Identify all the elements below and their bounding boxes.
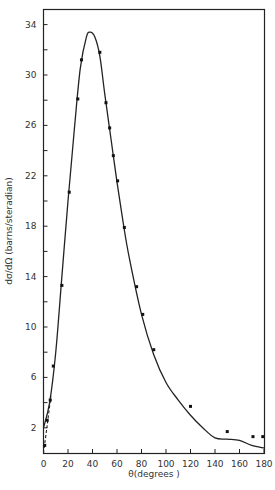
data-point [135, 285, 138, 288]
x-tick-label: 60 [111, 459, 123, 469]
x-tick-label: 100 [157, 459, 174, 469]
data-point [251, 435, 254, 438]
data-point [189, 405, 192, 408]
data-point [152, 348, 155, 351]
x-tick-label: 140 [206, 459, 223, 469]
data-point [49, 399, 52, 402]
y-tick-label: 2 [31, 423, 37, 433]
data-point [68, 191, 71, 194]
x-axis-label: θ(degrees ) [128, 469, 180, 479]
y-tick-label: 14 [25, 272, 37, 282]
y-tick-label: 30 [25, 70, 37, 80]
x-tick-label: 80 [136, 459, 148, 469]
data-point [43, 444, 46, 447]
x-tick-label: 180 [255, 459, 272, 469]
data-point [108, 126, 111, 129]
data-point [226, 430, 229, 433]
plot-frame [44, 10, 265, 454]
data-point [141, 313, 144, 316]
data-point [60, 284, 63, 287]
y-axis-label: dσ/dΩ (barns/steradian) [4, 177, 14, 285]
y-tick-label: 10 [25, 322, 37, 332]
y-tick-label: 22 [25, 171, 36, 181]
data-point [52, 365, 55, 368]
data-point [104, 101, 107, 104]
data-point [112, 154, 115, 157]
x-axis-ticks: 020406080100120140160180 [41, 449, 273, 469]
y-tick-label: 18 [25, 221, 37, 231]
y-tick-label: 34 [25, 20, 37, 30]
x-tick-label: 20 [62, 459, 74, 469]
x-tick-label: 40 [87, 459, 99, 469]
x-tick-label: 160 [231, 459, 248, 469]
y-axis-ticks: 2610141822263034 [25, 20, 47, 433]
data-point [116, 179, 119, 182]
data-point [46, 419, 49, 422]
chart: 2610141822263034 02040608010012014016018… [0, 0, 275, 490]
data-point [98, 51, 101, 54]
data-point [80, 58, 83, 61]
data-point [123, 226, 126, 229]
data-point [261, 435, 264, 438]
theory-curve [44, 32, 265, 448]
data-point [76, 97, 79, 100]
x-tick-label: 0 [41, 459, 47, 469]
y-tick-label: 26 [25, 120, 37, 130]
y-tick-label: 6 [31, 372, 37, 382]
x-tick-label: 120 [182, 459, 199, 469]
